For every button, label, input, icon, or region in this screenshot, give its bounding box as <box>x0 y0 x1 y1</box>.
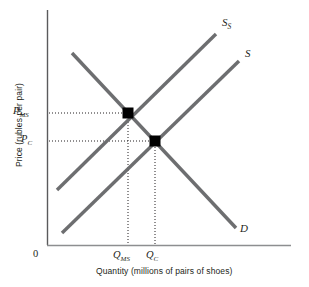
curve-label-s: S <box>245 47 251 59</box>
curve-supply-ss <box>57 34 216 190</box>
equilibrium-marker-ms <box>123 108 134 119</box>
x-tick-qc-main: Q <box>146 249 154 260</box>
x-axis-title: Quantity (millions of pairs of shoes) <box>96 266 232 276</box>
x-tick-label-qc: QC <box>146 249 158 263</box>
y-tick-label-pms: PMS <box>13 105 29 119</box>
y-axis-title: Price (rubles per pair) <box>14 50 24 200</box>
x-tick-label-qms: QMS <box>113 249 130 263</box>
y-tick-pc-sub: C <box>27 139 32 147</box>
y-tick-pms-sub: MS <box>19 111 28 119</box>
y-tick-label-pc: PC <box>21 133 32 147</box>
x-tick-qms-sub: MS <box>121 255 130 263</box>
chart-canvas <box>0 0 309 287</box>
equilibrium-marker-c <box>150 136 161 147</box>
curve-supply-s <box>62 61 239 233</box>
supply-demand-chart: Price (rubles per pair) Quantity (millio… <box>0 0 309 287</box>
x-tick-qms-main: Q <box>113 249 121 260</box>
curve-label-ss: SS <box>222 16 231 31</box>
curve-label-ss-sub: S <box>228 22 232 31</box>
curve-label-d: D <box>240 222 248 234</box>
origin-label: 0 <box>33 248 38 259</box>
x-tick-qc-sub: C <box>154 255 159 263</box>
